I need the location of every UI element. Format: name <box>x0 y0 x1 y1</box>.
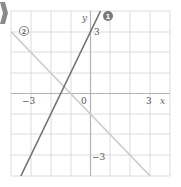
y-axis-label: y <box>81 13 88 23</box>
line-chart: −3 0 3 3 −3 x y 1 2 <box>0 0 181 187</box>
series-2-marker-label: 2 <box>22 28 27 36</box>
y-tick-neg3: −3 <box>92 152 106 162</box>
series-2-marker: 2 <box>20 27 29 37</box>
x-tick-0: 0 <box>81 96 87 106</box>
x-axis-label: x <box>160 96 165 106</box>
series-1-marker-label: 1 <box>106 13 111 21</box>
series-1-marker: 1 <box>103 11 113 21</box>
x-tick-3: 3 <box>146 96 152 106</box>
axes <box>11 11 170 176</box>
x-tick-neg3: −3 <box>22 96 36 106</box>
y-tick-3: 3 <box>94 27 100 37</box>
tick-labels: −3 0 3 3 −3 <box>22 27 152 162</box>
